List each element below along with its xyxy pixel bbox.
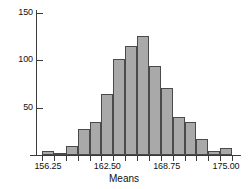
- x-axis-tick-mark: [125, 156, 126, 161]
- histogram-bar: [101, 94, 113, 155]
- histogram-bar: [173, 117, 185, 155]
- histogram-bar: [125, 46, 137, 155]
- histogram-bar: [113, 59, 125, 155]
- x-axis-tick-mark: [137, 156, 138, 161]
- x-axis-tick-mark: [90, 156, 91, 161]
- x-axis-tick-mark: [185, 156, 186, 161]
- histogram-bar: [54, 153, 66, 155]
- histogram-bar: [161, 88, 173, 155]
- x-axis-tick-mark: [78, 156, 79, 161]
- x-axis-tick-mark: [66, 156, 67, 161]
- histogram-bar: [78, 129, 90, 155]
- x-axis-tick-mark: [149, 156, 150, 161]
- histogram-chart: 50100150 156.25162.50168.75175.00 Means: [0, 0, 248, 189]
- x-axis-tick-label: 175.00: [213, 161, 240, 171]
- x-axis-tick-label: 168.75: [153, 161, 180, 171]
- histogram-bar: [66, 146, 78, 155]
- x-axis-tick-label: 162.50: [94, 161, 121, 171]
- y-axis-tick-label-wrap: 150: [0, 7, 33, 17]
- x-axis-title: Means: [0, 173, 248, 184]
- x-axis-tick-mark: [196, 156, 197, 161]
- y-axis-tick-label-wrap: 50: [0, 102, 33, 112]
- y-axis-tick-label: 50: [23, 102, 33, 112]
- histogram-bar: [196, 139, 208, 155]
- histogram-bar: [185, 122, 197, 155]
- histogram-bar: [220, 148, 232, 155]
- x-axis-tick-label: 156.25: [34, 161, 61, 171]
- y-axis-tick-label: 100: [18, 54, 33, 64]
- histogram-bar: [208, 151, 220, 155]
- y-axis-tick-label: 150: [18, 7, 33, 17]
- histogram-bar: [90, 122, 102, 155]
- y-axis-tick-mark: [36, 60, 43, 61]
- x-axis-tick-mark: [208, 156, 209, 161]
- histogram-bar: [42, 151, 54, 155]
- y-axis-tick-label-wrap: 100: [0, 54, 33, 64]
- y-axis-tick-mark: [36, 13, 43, 14]
- y-axis-tick-mark: [36, 108, 43, 109]
- histogram-bar: [149, 66, 161, 155]
- histogram-bar: [137, 36, 149, 155]
